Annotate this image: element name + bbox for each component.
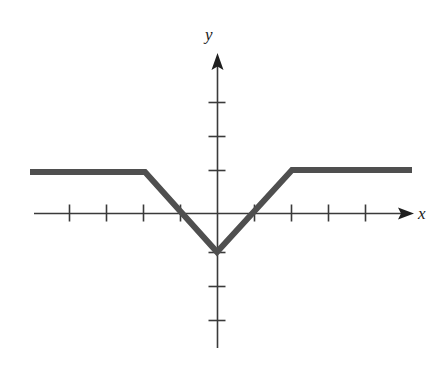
function-curve xyxy=(30,170,412,252)
coordinate-plane-svg: y x xyxy=(0,0,440,365)
x-axis-label: x xyxy=(417,204,426,223)
graph-figure: y x xyxy=(0,0,440,365)
y-axis-label: y xyxy=(203,25,213,44)
